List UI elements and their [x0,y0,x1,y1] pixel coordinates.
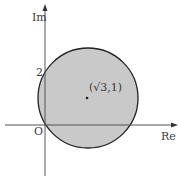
center-point [86,97,89,100]
real-axis-label: Re [161,131,176,142]
center-label: (√3,1) [89,82,122,93]
y-tick-label: 2 [36,67,43,78]
imaginary-axis-arrow-icon [43,4,48,11]
real-axis-arrow-icon [171,123,178,128]
origin-label: O [34,126,43,137]
imaginary-axis-label: Im [32,12,47,23]
